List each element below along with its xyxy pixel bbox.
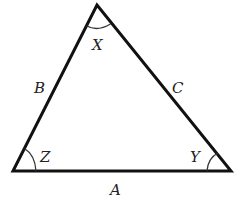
angle-arc-bottom-left <box>25 149 37 172</box>
angle-arc-bottom-right <box>207 153 218 171</box>
side-label-a: A <box>108 181 121 199</box>
angle-label-z: Z <box>39 148 51 166</box>
angle-label-y: Y <box>190 148 202 166</box>
angle-arc-top <box>87 24 111 29</box>
angle-label-x: X <box>91 36 104 54</box>
triangle-diagram: X B C Z Y A <box>0 0 245 202</box>
side-label-c: C <box>172 79 184 97</box>
triangle-outline <box>13 5 231 171</box>
side-label-b: B <box>33 79 45 97</box>
